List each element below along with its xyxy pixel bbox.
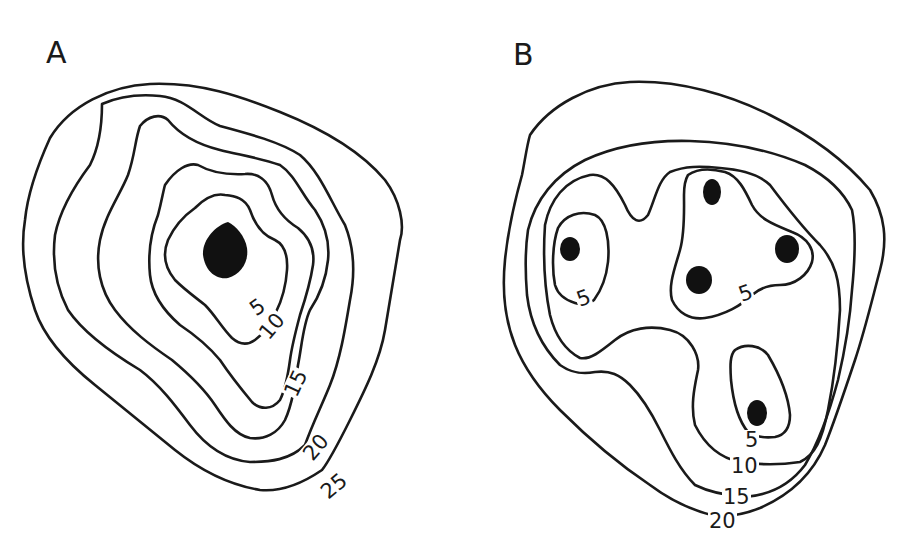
contour-a-25 — [23, 84, 402, 491]
contour-a-20 — [54, 95, 353, 462]
panel-a-title: A — [46, 38, 67, 68]
contour-b-15 — [526, 141, 855, 497]
peak-b-5 — [747, 400, 767, 426]
peak-a — [203, 222, 247, 278]
contour-label-b-10: 10 — [730, 456, 759, 477]
contour-label-b-15: 15 — [722, 487, 751, 508]
panel-b-contours — [504, 82, 884, 516]
contour-b-10 — [544, 167, 840, 464]
contour-diagram — [0, 0, 912, 547]
peak-b-2 — [703, 179, 721, 205]
contour-label-b-5-bottom: 5 — [744, 430, 759, 451]
peak-b-3 — [775, 235, 799, 263]
contour-label-b-20: 20 — [708, 511, 737, 532]
peak-b-4 — [686, 266, 712, 294]
panel-a-contours — [23, 84, 402, 491]
panel-b-title: B — [513, 40, 534, 70]
peak-b-1 — [560, 237, 580, 261]
contour-b-20 — [504, 82, 884, 516]
